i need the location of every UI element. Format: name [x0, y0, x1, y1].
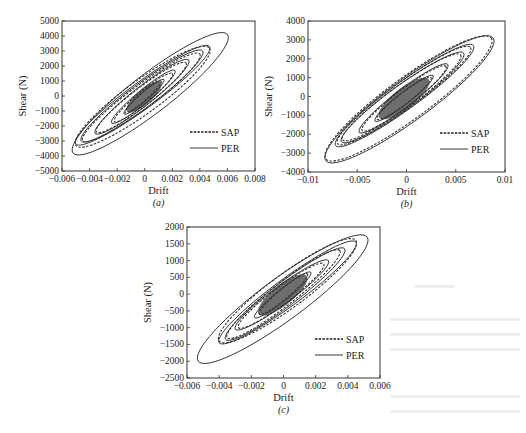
x-tick-label: 0.004	[189, 174, 211, 184]
y-tick-label: 1000	[165, 256, 184, 266]
y-tick-label: 2000	[165, 222, 184, 232]
y-tick-label: 500	[170, 272, 185, 282]
y-tick-label: −1000	[35, 106, 60, 116]
y-tick-label: −2000	[160, 356, 185, 366]
y-tick-label: −2000	[281, 129, 306, 139]
panel-label: (c)	[278, 404, 290, 416]
y-axis-label: Shear (N)	[142, 281, 154, 323]
y-axis-label: Shear (N)	[17, 75, 29, 117]
legend-label-sap: SAP	[471, 128, 490, 139]
x-tick-label: 0.005	[445, 175, 467, 185]
chart-panel-a: −0.006−0.004−0.00200.0020.0040.0060.0085…	[17, 16, 266, 209]
y-tick-label: 1000	[286, 73, 305, 83]
x-tick-label: −0.005	[344, 175, 371, 185]
y-tick-label: −3000	[35, 136, 60, 146]
x-tick-label: 0.01	[497, 175, 514, 185]
x-axis: −0.01−0.00500.0050.01	[297, 169, 514, 185]
y-tick-label: −2000	[35, 121, 60, 131]
legend-label-per: PER	[221, 143, 240, 154]
y-tick-label: −3000	[281, 148, 306, 158]
y-tick-label: −4000	[35, 151, 60, 161]
chart-panel-c: −0.006−0.004−0.00200.0020.0040.006200015…	[142, 220, 391, 416]
y-tick-label: −1000	[281, 110, 306, 120]
x-tick-label: 0.008	[244, 174, 266, 184]
x-axis-label: Drift	[273, 392, 293, 403]
legend: SAPPER	[315, 334, 365, 361]
x-axis-label: Drift	[148, 185, 168, 196]
y-tick-label: 3000	[286, 35, 305, 45]
y-axis: 40003000200010000−1000−2000−3000−4000	[281, 16, 311, 177]
y-tick-label: 0	[54, 91, 59, 101]
y-tick-label: −1000	[160, 323, 185, 333]
x-tick-label: 0.002	[162, 174, 184, 184]
y-tick-label: 1500	[165, 239, 184, 249]
y-tick-label: 1000	[40, 76, 59, 86]
legend-label-per: PER	[346, 350, 365, 361]
y-tick-label: −1500	[160, 339, 185, 349]
y-tick-label: 0	[300, 92, 305, 102]
x-axis: −0.006−0.004−0.00200.0020.0040.006	[174, 375, 391, 391]
y-axis-label: Shear (N)	[263, 75, 275, 117]
legend-label-sap: SAP	[346, 334, 365, 345]
hysteresis-loops	[61, 19, 239, 168]
x-tick-label: 0	[404, 175, 409, 185]
legend-label-per: PER	[471, 144, 490, 155]
y-tick-label: 4000	[40, 31, 59, 41]
x-tick-label: 0.002	[305, 381, 327, 391]
x-tick-label: −0.002	[238, 381, 265, 391]
figure: −0.006−0.004−0.00200.0020.0040.0060.0085…	[0, 0, 526, 433]
x-axis: −0.006−0.004−0.00200.0020.0040.0060.008	[49, 168, 266, 184]
y-axis: 500040003000200010000−1000−2000−3000−400…	[35, 16, 65, 176]
chart-panel-b: −0.01−0.00500.0050.0140003000200010000−1…	[263, 16, 514, 210]
x-tick-label: 0	[281, 381, 286, 391]
legend: SAPPER	[440, 128, 490, 155]
y-axis: 2000150010005000−500−1000−1500−2000−2500	[160, 222, 190, 383]
x-axis-label: Drift	[396, 186, 416, 197]
x-tick-label: −0.004	[76, 174, 103, 184]
x-tick-label: 0	[142, 174, 147, 184]
y-tick-label: −5000	[35, 166, 60, 176]
y-tick-label: 5000	[40, 16, 59, 26]
x-tick-label: −0.004	[206, 381, 233, 391]
y-tick-label: −4000	[281, 167, 306, 177]
panel-label: (a)	[153, 197, 165, 209]
legend-label-sap: SAP	[221, 127, 240, 138]
legend: SAPPER	[190, 127, 240, 154]
panel-label: (b)	[401, 198, 413, 210]
y-tick-label: 2000	[40, 61, 59, 71]
y-tick-label: −500	[164, 306, 184, 316]
y-tick-label: 2000	[286, 54, 305, 64]
y-tick-label: −2500	[160, 373, 185, 383]
x-tick-label: 0.006	[217, 174, 239, 184]
x-tick-label: 0.004	[337, 381, 359, 391]
y-tick-label: 0	[179, 289, 184, 299]
x-tick-label: −0.002	[104, 174, 131, 184]
y-tick-label: 4000	[286, 16, 305, 26]
x-tick-label: 0.006	[369, 381, 391, 391]
y-tick-label: 3000	[40, 46, 59, 56]
